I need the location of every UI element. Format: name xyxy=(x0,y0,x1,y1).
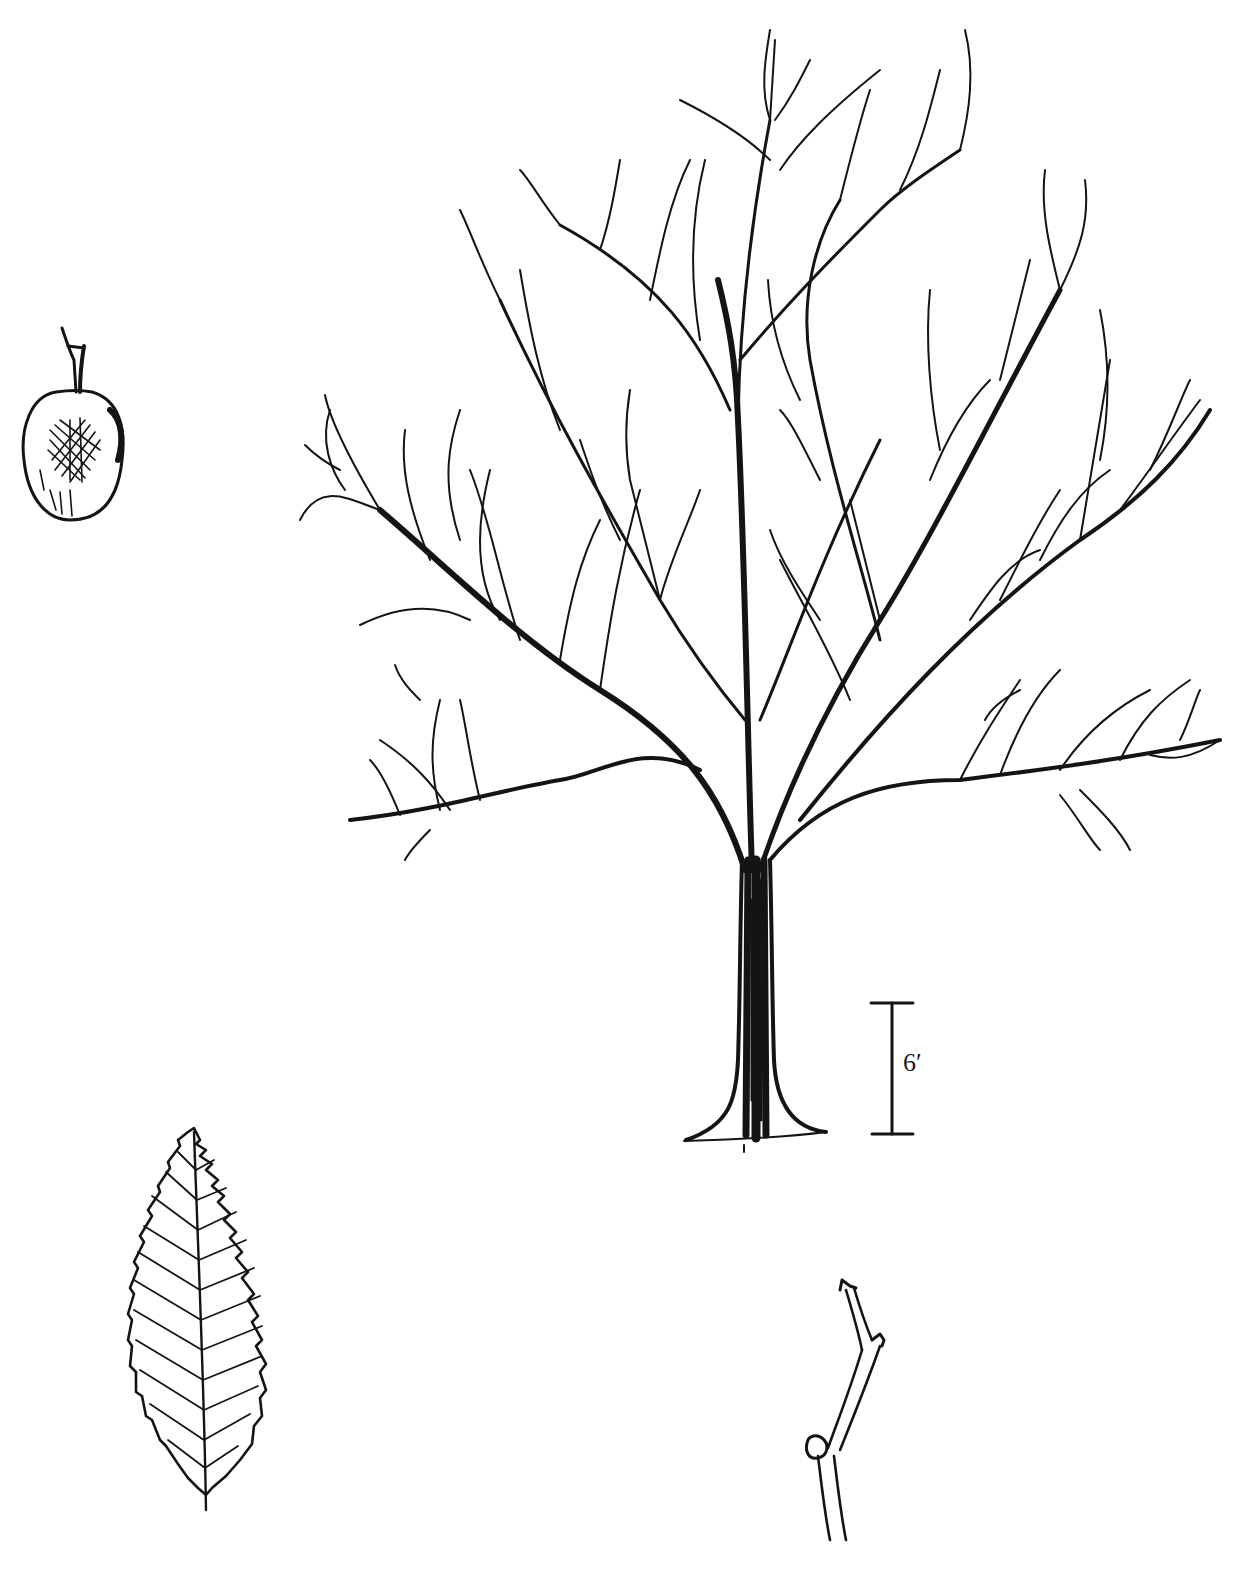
illustration-canvas xyxy=(0,0,1259,1579)
scale-bar-label: 6′ xyxy=(903,1050,922,1076)
fruit-seed-hatching xyxy=(40,418,100,516)
tree-fine-branches xyxy=(300,30,1220,860)
twig-figure xyxy=(806,1280,884,1540)
tree-trunk xyxy=(684,860,826,1152)
tree-figure xyxy=(300,30,1220,1152)
fruit-figure xyxy=(23,328,123,520)
botanical-plate: 6′ xyxy=(0,0,1259,1579)
leaf-figure xyxy=(128,1128,266,1510)
